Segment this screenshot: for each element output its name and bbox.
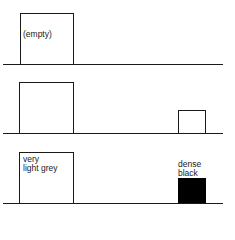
baseline xyxy=(3,64,223,65)
baseline xyxy=(3,133,223,134)
small-box xyxy=(178,110,206,134)
small-box-dense xyxy=(178,178,206,203)
large-box xyxy=(19,82,74,134)
small-box-label: dense black xyxy=(178,160,201,178)
baseline xyxy=(3,203,223,204)
large-box-label: very light grey xyxy=(23,155,58,173)
large-box-label: (empty) xyxy=(23,30,52,39)
